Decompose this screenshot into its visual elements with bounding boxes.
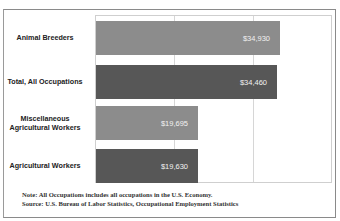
category-label-line1: Miscellaneous bbox=[0, 114, 90, 123]
value-label: $19,695 bbox=[161, 119, 188, 128]
value-label: $19,630 bbox=[161, 162, 188, 171]
category-label: Miscellaneous Agricultural Workers bbox=[0, 114, 90, 132]
source-text: Source: U.S. Bureau of Labor Statistics,… bbox=[22, 199, 238, 208]
category-label: Animal Breeders bbox=[0, 33, 90, 42]
value-label: $34,460 bbox=[240, 78, 267, 87]
plot-area: $34,930 $34,460 $19,695 $19,630 bbox=[95, 15, 332, 183]
value-label: $34,930 bbox=[243, 34, 270, 43]
category-label: Total, All Occupations bbox=[0, 77, 90, 86]
chart-notes: Note: All Occupations includes all occup… bbox=[22, 190, 238, 208]
note-text: Note: All Occupations includes all occup… bbox=[22, 190, 238, 199]
category-label-line2: Agricultural Workers bbox=[0, 123, 90, 132]
bar-total-all-occupations: $34,460 bbox=[96, 65, 277, 99]
category-label: Agricultural Workers bbox=[0, 161, 90, 170]
bar-animal-breeders: $34,930 bbox=[96, 21, 280, 55]
bar-agricultural-workers: $19,630 bbox=[96, 149, 198, 183]
bar-misc-agricultural-workers: $19,695 bbox=[96, 106, 198, 140]
